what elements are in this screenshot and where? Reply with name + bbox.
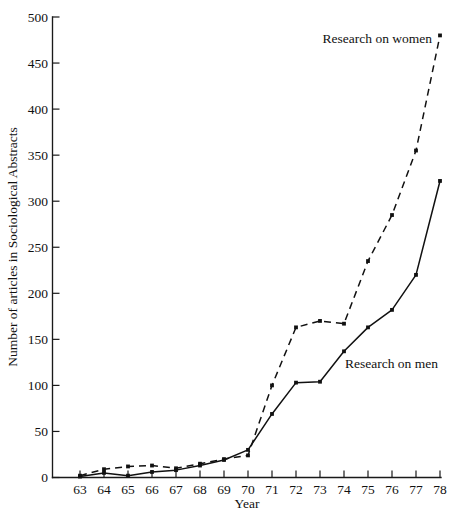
data-point-marker: [318, 380, 322, 384]
line-chart-canvas: 050100150200250300350400450500 636465666…: [0, 0, 456, 526]
data-point-marker: [198, 464, 202, 468]
y-axis-ticks: [53, 17, 60, 478]
data-point-marker: [294, 381, 298, 385]
x-axis-tick-labels: 63646566676869707172737475767778: [73, 482, 447, 497]
x-tick-label: 65: [121, 482, 135, 497]
y-tick-label: 450: [28, 56, 49, 71]
x-tick-label: 66: [145, 482, 159, 497]
data-point-marker: [150, 470, 154, 474]
x-tick-label: 76: [385, 482, 399, 497]
data-point-marker: [270, 412, 274, 416]
data-point-marker: [102, 471, 106, 475]
data-point-marker: [126, 474, 130, 478]
data-point-marker: [342, 322, 346, 326]
x-tick-label: 63: [73, 482, 87, 497]
data-point-marker: [102, 467, 106, 471]
x-tick-label: 67: [169, 482, 183, 497]
data-point-marker: [390, 308, 394, 312]
data-point-marker: [222, 458, 226, 462]
data-point-marker: [390, 213, 394, 217]
data-point-marker: [246, 448, 250, 452]
y-axis-title: Number of articles in Sociological Abstr…: [5, 127, 20, 367]
data-point-marker: [366, 325, 370, 329]
y-tick-label: 200: [28, 286, 49, 301]
data-point-marker: [150, 464, 154, 468]
data-point-marker: [414, 149, 418, 153]
y-tick-label: 350: [28, 148, 49, 163]
y-tick-label: 100: [28, 378, 49, 393]
data-point-marker: [174, 468, 178, 472]
x-tick-label: 78: [433, 482, 447, 497]
series-line-research-on-men: [80, 181, 440, 477]
data-point-marker: [294, 325, 298, 329]
series-markers-research-on-men: [78, 179, 442, 478]
x-tick-label: 77: [409, 482, 423, 497]
data-point-marker: [414, 273, 418, 277]
annotation-research-on-men: Research on men: [345, 356, 438, 371]
x-tick-label: 68: [193, 482, 207, 497]
x-tick-label: 69: [217, 482, 231, 497]
data-point-marker: [126, 465, 130, 469]
y-tick-label: 400: [28, 102, 49, 117]
data-point-marker: [270, 384, 274, 388]
data-point-marker: [438, 179, 442, 183]
x-tick-label: 74: [337, 482, 351, 497]
y-tick-label: 300: [28, 194, 49, 209]
y-tick-label: 250: [28, 240, 49, 255]
y-tick-label: 0: [41, 470, 48, 485]
x-axis-title: Year: [235, 496, 260, 511]
data-point-marker: [342, 349, 346, 353]
x-tick-label: 73: [313, 482, 327, 497]
x-tick-label: 72: [289, 482, 303, 497]
y-axis-tick-labels: 050100150200250300350400450500: [28, 10, 49, 486]
x-tick-label: 64: [97, 482, 111, 497]
data-point-marker: [438, 34, 442, 38]
data-point-marker: [366, 259, 370, 263]
y-tick-label: 50: [35, 424, 49, 439]
data-point-marker: [246, 454, 250, 458]
data-point-marker: [78, 475, 82, 479]
chart-figure: 050100150200250300350400450500 636465666…: [0, 0, 456, 526]
x-tick-label: 71: [265, 482, 279, 497]
x-tick-label: 70: [241, 482, 255, 497]
x-tick-label: 75: [361, 482, 375, 497]
data-point-marker: [318, 319, 322, 323]
annotation-research-on-women: Research on women: [323, 31, 433, 46]
y-tick-label: 500: [28, 10, 49, 25]
series-markers-research-on-women: [78, 34, 442, 478]
y-tick-label: 150: [28, 332, 49, 347]
series-line-research-on-women: [80, 35, 440, 475]
